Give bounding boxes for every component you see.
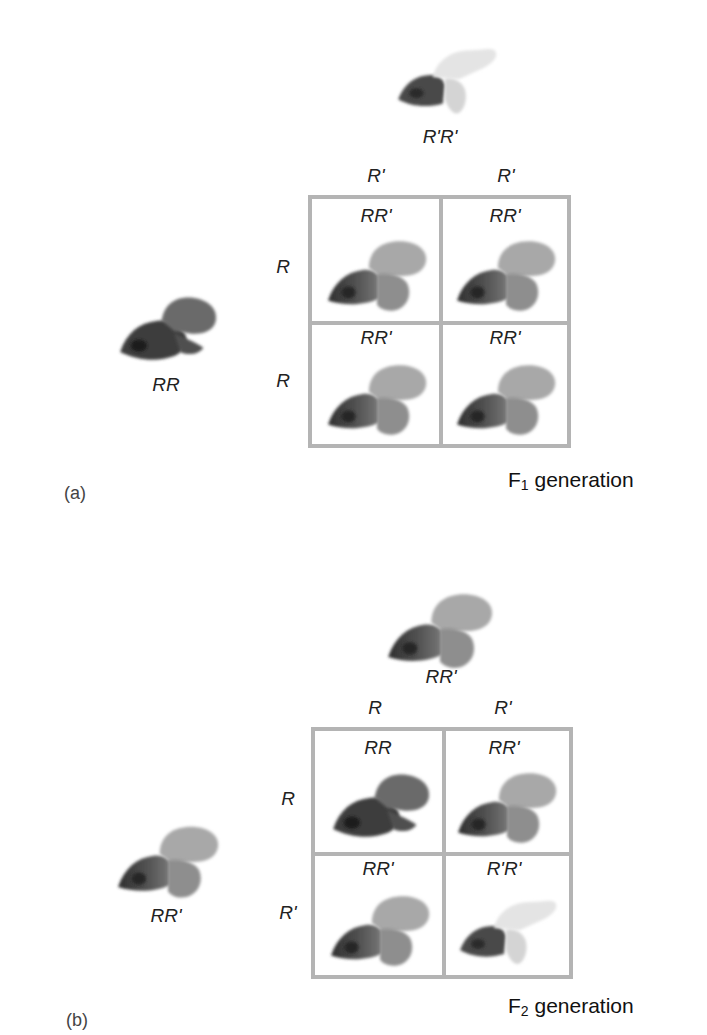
red-flower-icon <box>329 767 433 845</box>
panel-label: (a) <box>64 483 86 504</box>
cell-genotype: RR' <box>362 858 393 880</box>
white-flower-icon <box>392 40 500 122</box>
punnett-cell: R'R' <box>446 856 569 975</box>
generation-subscript: 2 <box>521 1003 529 1019</box>
punnett-cell: RR' <box>312 325 439 444</box>
punnett-cell: RR' <box>443 199 567 321</box>
generation-label: F1 generation <box>508 468 634 493</box>
cell-genotype: RR' <box>488 737 519 759</box>
cell-genotype: RR' <box>360 205 391 227</box>
generation-subscript: 1 <box>521 477 529 493</box>
punnett-square: RR RR' RR' R'R' <box>311 727 573 979</box>
pink-flower-icon <box>455 361 557 437</box>
panel-label: (b) <box>66 1010 88 1031</box>
pink-flower-icon <box>329 892 431 968</box>
punnett-cell: RR' <box>312 199 439 321</box>
generation-prefix: F <box>508 994 521 1017</box>
generation-prefix: F <box>508 468 521 491</box>
pink-flower-icon <box>455 237 557 313</box>
row-allele: R <box>276 256 290 278</box>
parent-left-genotype: RR <box>152 374 179 396</box>
punnett-square: RR' RR' RR' RR' <box>308 195 571 448</box>
cell-genotype: RR' <box>360 327 391 349</box>
cell-genotype: RR <box>364 737 391 759</box>
punnett-cell: RR <box>315 731 442 852</box>
column-allele: R <box>368 697 382 719</box>
cell-genotype: R'R' <box>487 858 522 880</box>
row-allele: R' <box>279 902 296 924</box>
parent-top-genotype: RR' <box>425 666 456 688</box>
cell-genotype: RR' <box>489 205 520 227</box>
generation-suffix: generation <box>529 468 634 491</box>
cell-genotype: RR' <box>489 327 520 349</box>
punnett-cell: RR' <box>443 325 567 444</box>
parent-left-genotype: RR' <box>150 905 181 927</box>
pink-flower-icon <box>326 237 428 313</box>
generation-label: F2 generation <box>508 994 634 1019</box>
column-allele: R' <box>494 697 511 719</box>
row-allele: R <box>281 788 295 810</box>
punnett-cell: RR' <box>446 731 569 852</box>
white-flower-icon <box>454 894 560 970</box>
pink-flower-icon <box>386 590 494 670</box>
punnett-cell: RR' <box>315 856 442 975</box>
row-allele: R <box>276 370 290 392</box>
column-allele: R' <box>497 165 514 187</box>
pink-flower-icon <box>116 822 220 900</box>
parent-top-genotype: R'R' <box>423 126 458 148</box>
pink-flower-icon <box>326 361 428 437</box>
generation-suffix: generation <box>529 994 634 1017</box>
red-flower-icon <box>116 290 220 368</box>
pink-flower-icon <box>456 769 558 845</box>
column-allele: R' <box>367 165 384 187</box>
